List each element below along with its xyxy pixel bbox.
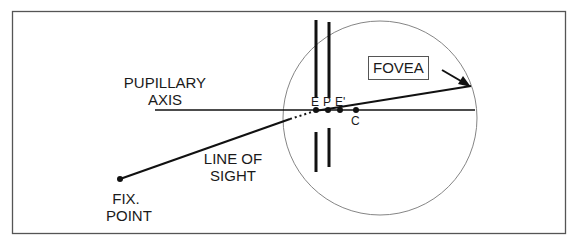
- pupillary-axis-label: PUPILLARY AXIS: [112, 74, 218, 108]
- fixation-point-dot: [117, 176, 123, 182]
- pupillary-axis-label-line1: PUPILLARY: [112, 74, 218, 91]
- point-C-label: C: [351, 115, 360, 128]
- point-C-dot: [353, 107, 359, 113]
- point-E-label: E: [311, 96, 319, 109]
- line-of-sight-label: LINE OF SIGHT: [198, 150, 268, 184]
- fovea-label: FOVEA: [368, 56, 429, 80]
- point-E-prime-label: E': [335, 96, 345, 109]
- line-of-sight-label-line2: SIGHT: [198, 167, 268, 184]
- fovea-arrow-head: [458, 76, 471, 87]
- figure-frame: [13, 12, 566, 234]
- point-P-label: P: [323, 96, 331, 109]
- eye-diagram: [0, 0, 573, 241]
- fixation-point-label: FIX. POINT: [106, 190, 146, 224]
- fixation-point-label-line1: FIX.: [106, 190, 146, 207]
- fixation-point-label-line2: POINT: [106, 207, 146, 224]
- line-of-sight-dotted: [290, 111, 315, 119]
- eyeball-circle: [283, 21, 477, 215]
- line-of-sight-label-line1: LINE OF: [198, 150, 268, 167]
- pupillary-axis-label-line2: AXIS: [112, 91, 218, 108]
